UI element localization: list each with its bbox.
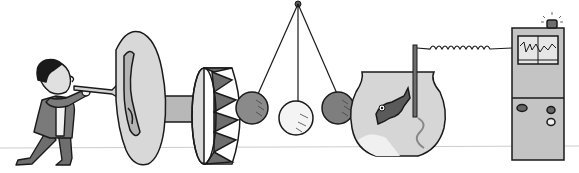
machine-knob [547, 119, 555, 126]
coiled-wire [417, 46, 512, 49]
monitor-machine [512, 12, 564, 160]
fishbowl [351, 72, 446, 156]
pendulum-cradle [236, 1, 354, 135]
illustration-canvas [0, 0, 579, 173]
machine-knob [517, 105, 527, 112]
pendulum-ball-right [322, 92, 354, 124]
giant-ear [116, 31, 200, 164]
pendulum-ball-left [236, 92, 268, 124]
man-figure [16, 60, 122, 166]
floor-line [0, 146, 579, 148]
probe-rod [413, 45, 417, 117]
drum [192, 68, 240, 164]
alarm-light [547, 20, 557, 28]
machine-knob [547, 107, 555, 114]
